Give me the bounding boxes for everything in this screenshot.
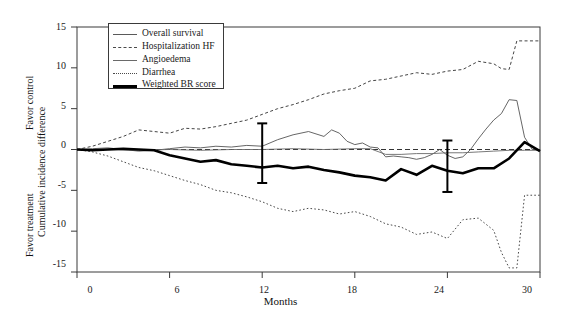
bold-line-swatch-icon xyxy=(113,79,137,90)
favor-control-annotation: Favor control xyxy=(24,76,35,130)
legend-item: Weighted BR score xyxy=(113,78,216,91)
y-tick-label: 10 xyxy=(44,60,66,71)
solid-line-swatch-icon xyxy=(113,28,137,39)
y-tick-label: -15 xyxy=(42,258,66,269)
chart-plot-area xyxy=(0,0,561,325)
legend-item: Hospitalization HF xyxy=(113,40,215,53)
chart-figure: 15 10 5 0 -5 -10 -15 0 6 12 18 24 30 Mon… xyxy=(0,0,561,325)
solid-line-swatch-icon xyxy=(113,54,137,65)
y-tick-label: 0 xyxy=(44,139,66,150)
x-tick-label: 24 xyxy=(427,284,451,295)
x-tick-label: 0 xyxy=(78,284,102,295)
legend-item-label: Weighted BR score xyxy=(142,80,216,90)
x-tick-label: 6 xyxy=(165,284,189,295)
favor-treatment-annotation: Favor treatment xyxy=(24,193,35,257)
legend-item-label: Hospitalization HF xyxy=(142,42,215,52)
legend-item-label: Diarrhea xyxy=(142,68,175,78)
y-tick-label: 5 xyxy=(44,100,66,111)
legend-item-label: Overall survival xyxy=(142,29,203,39)
legend-item: Overall survival xyxy=(113,27,203,40)
dotted-line-swatch-icon xyxy=(113,67,137,78)
dashed-line-swatch-icon xyxy=(113,41,137,52)
y-tick-label: 15 xyxy=(44,21,66,32)
x-axis-title: Months xyxy=(0,295,561,307)
series-line-weighted-br-score xyxy=(77,142,540,180)
x-tick-label: 12 xyxy=(252,284,276,295)
x-tick-label: 18 xyxy=(340,284,364,295)
chart-legend: Overall survival Hospitalization HF Angi… xyxy=(108,23,224,89)
y-axis-title: Cumulative incidence difference xyxy=(36,107,47,237)
legend-item-label: Angioedema xyxy=(142,55,191,65)
x-tick-label: 30 xyxy=(515,284,539,295)
legend-item: Angioedema xyxy=(113,53,191,66)
